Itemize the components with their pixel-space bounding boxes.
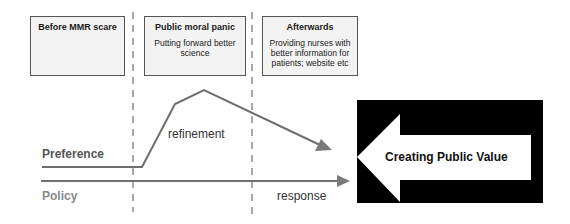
diagram: Before MMR scare Public moral panic Putt… [0, 0, 570, 224]
policy-arrowhead [337, 175, 350, 187]
phase-title: Before MMR scare [31, 22, 124, 32]
phase-description: Providing nurses with better information… [263, 38, 357, 68]
preference-arrowhead [315, 139, 332, 151]
phase-description: Putting forward better science [145, 38, 245, 58]
phase-title: Afterwards [263, 22, 357, 32]
response-label: response [277, 189, 326, 203]
phase-box-before: Before MMR scare [30, 16, 125, 76]
phase-title: Public moral panic [145, 22, 245, 32]
policy-label: Policy [42, 189, 77, 203]
phase-box-panic: Public moral panic Putting forward bette… [144, 16, 246, 76]
outcome-label: Creating Public Value [385, 150, 508, 164]
refinement-label: refinement [168, 127, 225, 141]
preference-label: Preference [42, 147, 104, 161]
phase-box-afterwards: Afterwards Providing nurses with better … [262, 16, 358, 76]
